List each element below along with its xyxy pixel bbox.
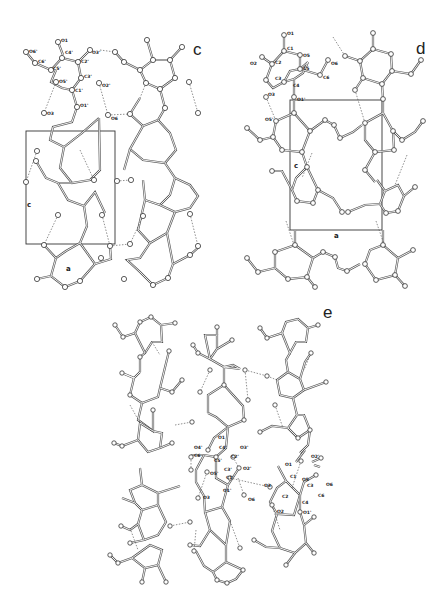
atom-label: O2': [311, 455, 319, 460]
atom-label: O4': [194, 446, 202, 451]
molecule-chain-right: [115, 40, 200, 285]
atom-label: C5': [214, 459, 222, 464]
panel-letter-c: c: [193, 41, 202, 58]
atom-label: C4': [219, 446, 227, 451]
axis-label-a: a: [334, 233, 339, 240]
atom-label: O6': [29, 50, 37, 55]
atom-label: O1: [61, 39, 68, 44]
atom-label: C4: [293, 84, 299, 89]
atom-label: O3: [264, 484, 271, 489]
atom-label: C3': [224, 468, 232, 473]
atom-label: C6: [323, 76, 329, 81]
atom-label: O1: [218, 436, 225, 441]
atom-label: O6: [331, 62, 338, 67]
atom-label: O1': [297, 98, 305, 103]
atom-label: C6: [194, 454, 200, 459]
panel-letter-d: d: [416, 40, 425, 57]
atom-label: O3: [268, 93, 275, 98]
panel-e: e O1 O4' C4' O3' C6 C5' C2' C3' O2' O5' …: [100, 300, 443, 597]
atom-label: C1': [226, 476, 234, 481]
atom-label: O1': [303, 511, 311, 516]
panel-d: d c a O1 C1 O5 O2 C2 C5 O6 C6 C3 C4 O3 O…: [220, 0, 443, 300]
molecule-middle-right: [348, 99, 423, 213]
atom-label: O2': [243, 467, 251, 472]
atom-label: O5: [303, 54, 310, 59]
atom-label: O6: [326, 483, 333, 488]
atom-label: C5': [53, 67, 61, 72]
panel-c: c c a O1 O6' C6' C4' O3' C2' C5' C3' O2'…: [0, 0, 220, 300]
atom-label: O5': [210, 472, 218, 477]
atom-label: C4': [65, 51, 73, 56]
atom-label: O3: [203, 496, 210, 501]
molecule-chain-right: [254, 319, 326, 565]
atom-label: O6: [111, 117, 118, 122]
atom-label: O2': [102, 84, 110, 89]
molecule-chain-left: [26, 42, 111, 287]
axis-label-a: a: [66, 266, 71, 273]
atom-label: O5': [59, 80, 67, 85]
atom-label: O3': [240, 446, 248, 451]
atom-label: O2: [277, 510, 284, 515]
atom-label: O5: [302, 478, 309, 483]
atom-label: C1: [287, 47, 293, 52]
atom-label: O1: [285, 463, 292, 468]
atom-label: C5: [303, 67, 309, 72]
crystal-packing-diagram-e: [100, 300, 443, 597]
crystal-packing-diagram-c: [0, 0, 220, 300]
atom-label: C6': [38, 60, 46, 65]
atom-label: C4: [302, 501, 308, 506]
atom-label: C2': [81, 60, 89, 65]
atom-label: C2': [231, 455, 239, 460]
atom-label: C1: [290, 475, 296, 480]
atom-label: C3: [275, 77, 281, 82]
axis-label-c: c: [294, 163, 298, 170]
atom-label: O5': [265, 118, 273, 123]
unit-cell: [26, 131, 115, 244]
atoms: [245, 31, 426, 290]
atoms: [108, 315, 328, 585]
molecule-lower-right: [365, 230, 413, 286]
atom-label: O1: [287, 32, 294, 37]
atom-label: O1': [223, 489, 231, 494]
atom-label: O3': [92, 51, 100, 56]
crystal-packing-diagram-d: [220, 0, 443, 300]
atom-label: C3: [307, 484, 313, 489]
atom-label: C6: [318, 494, 324, 499]
atom-label: O3: [47, 112, 54, 117]
hydrogen-bonds: [266, 37, 407, 248]
axis-label-c: c: [27, 202, 31, 209]
panel-letter-e: e: [323, 304, 332, 321]
atom-label: C2: [282, 495, 288, 500]
atom-label: C1': [75, 89, 83, 94]
atom-label: C2: [275, 61, 281, 66]
atom-label: O6: [248, 498, 255, 503]
atom-label: C3': [84, 75, 92, 80]
molecule-middle-left: [247, 97, 362, 212]
atom-label: O2: [250, 62, 257, 67]
molecule-lower-left: [247, 230, 360, 287]
atom-label: O1': [80, 104, 88, 109]
